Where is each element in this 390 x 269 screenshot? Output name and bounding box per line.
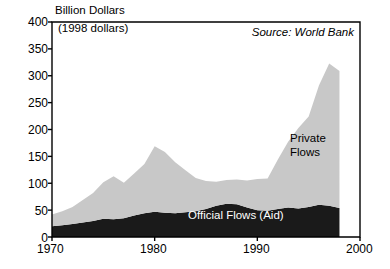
plot-area [0, 0, 390, 269]
series-label-official: Official Flows (Aid) [188, 208, 284, 222]
series-label-private-line1: Private [290, 131, 326, 145]
chart-figure: Billion Dollars (1998 dollars) Source: W… [0, 0, 390, 269]
series-label-private-line2: Flows [290, 145, 326, 159]
series-label-private: Private Flows [290, 131, 326, 160]
